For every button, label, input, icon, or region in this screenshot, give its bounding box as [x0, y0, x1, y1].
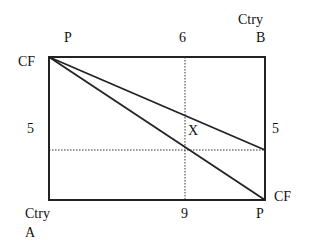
top-right-label-line1: Ctry [238, 13, 263, 27]
intersection-label: X [188, 124, 198, 138]
left-top-label: CF [18, 55, 35, 69]
top-left-label: P [64, 31, 72, 45]
right-mid-label: 5 [272, 122, 279, 136]
upper-diagonal-line [49, 57, 265, 150]
left-mid-label: 5 [27, 122, 34, 136]
right-bottom-label: CF [274, 190, 291, 204]
lower-diagonal-line [49, 57, 265, 200]
top-mid-label: 6 [179, 31, 186, 45]
bottom-mid-label: 9 [181, 207, 188, 221]
top-right-label-line2: B [256, 31, 265, 45]
bottom-right-label: P [256, 207, 264, 221]
bottom-left-label-line1: Ctry [25, 207, 50, 221]
bottom-left-label-line2: A [25, 226, 35, 240]
